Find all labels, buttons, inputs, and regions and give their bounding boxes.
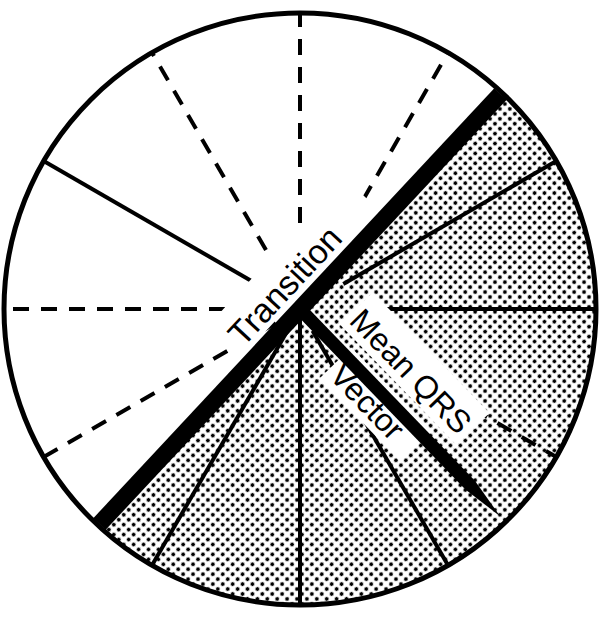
qrs-axis-wheel-diagram: Transition Mean QRS Vector [0,0,599,620]
